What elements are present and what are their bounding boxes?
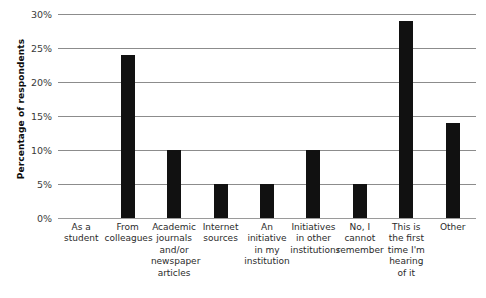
- bar: [306, 150, 320, 218]
- bar: [260, 184, 274, 218]
- x-axis-label-line: Academic: [151, 222, 197, 233]
- x-axis-label-line: the first: [383, 233, 429, 244]
- bar-slot: [244, 14, 290, 218]
- bar-slot: [58, 14, 104, 218]
- y-axis-tick-label: 20%: [18, 77, 52, 88]
- x-axis-label-line: student: [58, 233, 104, 244]
- bar: [167, 150, 181, 218]
- x-axis-label-line: remember: [337, 245, 383, 256]
- x-axis-label-line: From: [104, 222, 150, 233]
- bar-slot: [337, 14, 383, 218]
- bar-slot: [383, 14, 429, 218]
- x-axis-label-line: colleagues: [104, 233, 150, 244]
- bar-series: [58, 14, 476, 218]
- bar: [214, 184, 228, 218]
- bar: [446, 123, 460, 218]
- x-axis-label-line: institutions: [290, 245, 336, 256]
- x-axis-label-line: institution: [244, 256, 290, 267]
- bar-slot: [151, 14, 197, 218]
- x-axis-label-line: No, I: [337, 222, 383, 233]
- bar-slot: [104, 14, 150, 218]
- x-axis-label-line: cannot: [337, 233, 383, 244]
- x-axis-category-label: Initiativesin otherinstitutions: [290, 222, 336, 256]
- x-axis-label-line: This is: [383, 222, 429, 233]
- x-axis-category-labels: As astudentFromcolleaguesAcademicjournal…: [58, 222, 476, 298]
- y-axis-tick-label: 30%: [18, 9, 52, 20]
- x-axis-category-label: Aninitiativein myinstitution: [244, 222, 290, 268]
- bar: [399, 21, 413, 218]
- x-axis-category-label: Other: [430, 222, 476, 233]
- axis-baseline: [58, 218, 476, 219]
- y-axis-tick-label: 15%: [18, 111, 52, 122]
- x-axis-category-label: No, Icannotremember: [337, 222, 383, 256]
- x-axis-label-line: Other: [430, 222, 476, 233]
- bar-slot: [430, 14, 476, 218]
- x-axis-label-line: Initiatives: [290, 222, 336, 233]
- bar: [353, 184, 367, 218]
- x-axis-label-line: hearing: [383, 256, 429, 267]
- x-axis-label-line: in my: [244, 245, 290, 256]
- x-axis-label-line: of it: [383, 268, 429, 279]
- y-axis-tick-label: 10%: [18, 145, 52, 156]
- x-axis-label-line: sources: [197, 233, 243, 244]
- y-axis-tick-label: 25%: [18, 43, 52, 54]
- bar-chart-figure: Percentage of respondents 0%5%10%15%20%2…: [0, 0, 486, 298]
- x-axis-label-line: As a: [58, 222, 104, 233]
- x-axis-category-label: Academicjournalsand/ornewspaperarticles: [151, 222, 197, 279]
- y-axis-tick-labels: 0%5%10%15%20%25%30%: [18, 0, 52, 298]
- plot-area: [58, 14, 476, 218]
- x-axis-category-label: Fromcolleagues: [104, 222, 150, 245]
- y-axis-tick-label: 0%: [18, 213, 52, 224]
- bar-slot: [197, 14, 243, 218]
- x-axis-label-line: and/or: [151, 245, 197, 256]
- x-axis-category-label: As astudent: [58, 222, 104, 245]
- x-axis-category-label: Internetsources: [197, 222, 243, 245]
- x-axis-label-line: time I'm: [383, 245, 429, 256]
- x-axis-label-line: articles: [151, 268, 197, 279]
- x-axis-label-line: newspaper: [151, 256, 197, 267]
- x-axis-label-line: in other: [290, 233, 336, 244]
- x-axis-label-line: An: [244, 222, 290, 233]
- x-axis-label-line: initiative: [244, 233, 290, 244]
- x-axis-label-line: journals: [151, 233, 197, 244]
- bar: [121, 55, 135, 218]
- bar-slot: [290, 14, 336, 218]
- x-axis-label-line: Internet: [197, 222, 243, 233]
- x-axis-category-label: This isthe firsttime I'mhearingof it: [383, 222, 429, 279]
- y-axis-tick-label: 5%: [18, 179, 52, 190]
